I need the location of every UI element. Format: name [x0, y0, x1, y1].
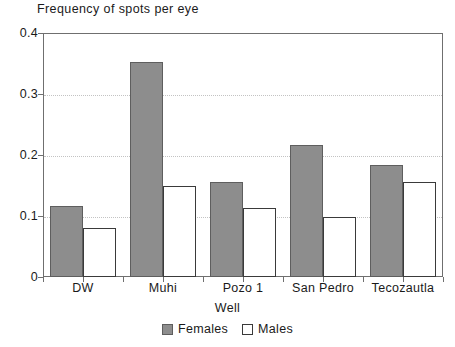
- chart-legend: FemalesMales: [0, 322, 455, 336]
- bar: [370, 165, 403, 277]
- legend-entry: Females: [162, 322, 228, 336]
- legend-entry: Males: [242, 322, 293, 336]
- bar: [323, 217, 356, 277]
- bar-group: [130, 33, 196, 277]
- chart-figure: Frequency of spots per eye 00.10.20.30.4…: [0, 0, 455, 347]
- x-axis-labels: DWMuhiPozo 1San PedroTecozautla: [43, 281, 443, 299]
- bar-group: [290, 33, 356, 277]
- bar: [83, 228, 116, 277]
- bar-group: [50, 33, 116, 277]
- bars-layer: [43, 33, 443, 277]
- y-tick-label: 0: [0, 270, 38, 284]
- bar: [130, 62, 163, 277]
- chart-title: Frequency of spots per eye: [37, 2, 199, 16]
- legend-swatch-icon: [162, 324, 173, 335]
- y-tick-label: 0.2: [0, 148, 38, 162]
- legend-label: Males: [258, 322, 293, 336]
- y-axis: 00.10.20.30.4: [0, 33, 41, 277]
- bar: [403, 182, 436, 277]
- legend-label: Females: [178, 322, 228, 336]
- y-tick-label: 0.4: [0, 26, 38, 40]
- bar: [163, 186, 196, 278]
- bar: [210, 182, 243, 277]
- x-tick-mark: [443, 277, 444, 282]
- bar: [290, 145, 323, 277]
- x-tick-label: Muhi: [149, 281, 177, 295]
- x-tick-label: Pozo 1: [223, 281, 264, 295]
- legend-swatch-icon: [242, 324, 253, 335]
- y-tick-label: 0.1: [0, 209, 38, 223]
- x-tick-label: San Pedro: [292, 281, 354, 295]
- x-tick-label: Tecozautla: [372, 281, 435, 295]
- x-tick-label: DW: [72, 281, 93, 295]
- bar-group: [370, 33, 436, 277]
- y-tick-label: 0.3: [0, 87, 38, 101]
- bar: [50, 206, 83, 277]
- x-axis-title: Well: [0, 301, 455, 315]
- bar-group: [210, 33, 276, 277]
- bar: [243, 208, 276, 277]
